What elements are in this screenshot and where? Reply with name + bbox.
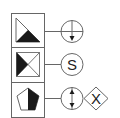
circle-s-icon: S — [61, 54, 83, 76]
s-label: S — [67, 56, 77, 73]
square-x-left-filled-icon — [17, 53, 40, 77]
pentagon-right-half-filled-icon — [17, 88, 39, 110]
circle-crosshair-down-arrow-icon — [61, 21, 83, 43]
triangle-half-filled-icon — [16, 18, 40, 42]
circle-double-arrow-icon — [61, 88, 83, 110]
diamond-x-icon: X — [84, 87, 108, 110]
symbol-legend-diagram: S X — [0, 0, 120, 118]
x-label: X — [91, 90, 101, 107]
